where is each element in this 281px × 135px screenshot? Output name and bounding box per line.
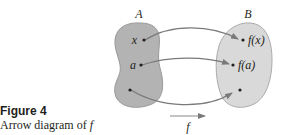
- set-b-label: B: [244, 7, 252, 21]
- point-a: [139, 63, 142, 66]
- mapping-label: f: [186, 120, 191, 134]
- point-a3: [128, 88, 131, 91]
- caption-prefix: Arrow diagram of: [0, 118, 90, 132]
- figure-description: Arrow diagram of f: [0, 118, 93, 132]
- caption-function: f: [90, 118, 93, 132]
- point-b3: [238, 88, 241, 91]
- figure-caption: Figure 4 Arrow diagram of f: [0, 104, 93, 132]
- point-a-label: a: [130, 58, 136, 72]
- point-x-label: x: [131, 33, 138, 47]
- point-fx-label: f(x): [248, 33, 265, 47]
- point-fa: [231, 63, 234, 66]
- point-fx: [241, 38, 244, 41]
- set-a-label: A: [134, 7, 143, 21]
- figure-title: Figure 4: [0, 104, 93, 118]
- point-fa-label: f(a): [238, 58, 255, 72]
- point-x: [142, 38, 145, 41]
